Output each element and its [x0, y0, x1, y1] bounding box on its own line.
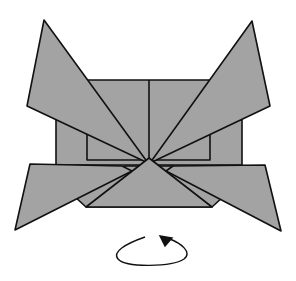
origami-cat-figure: [0, 0, 296, 281]
turn-over-arrow-icon: [117, 236, 187, 265]
origami-diagram: [0, 0, 296, 281]
